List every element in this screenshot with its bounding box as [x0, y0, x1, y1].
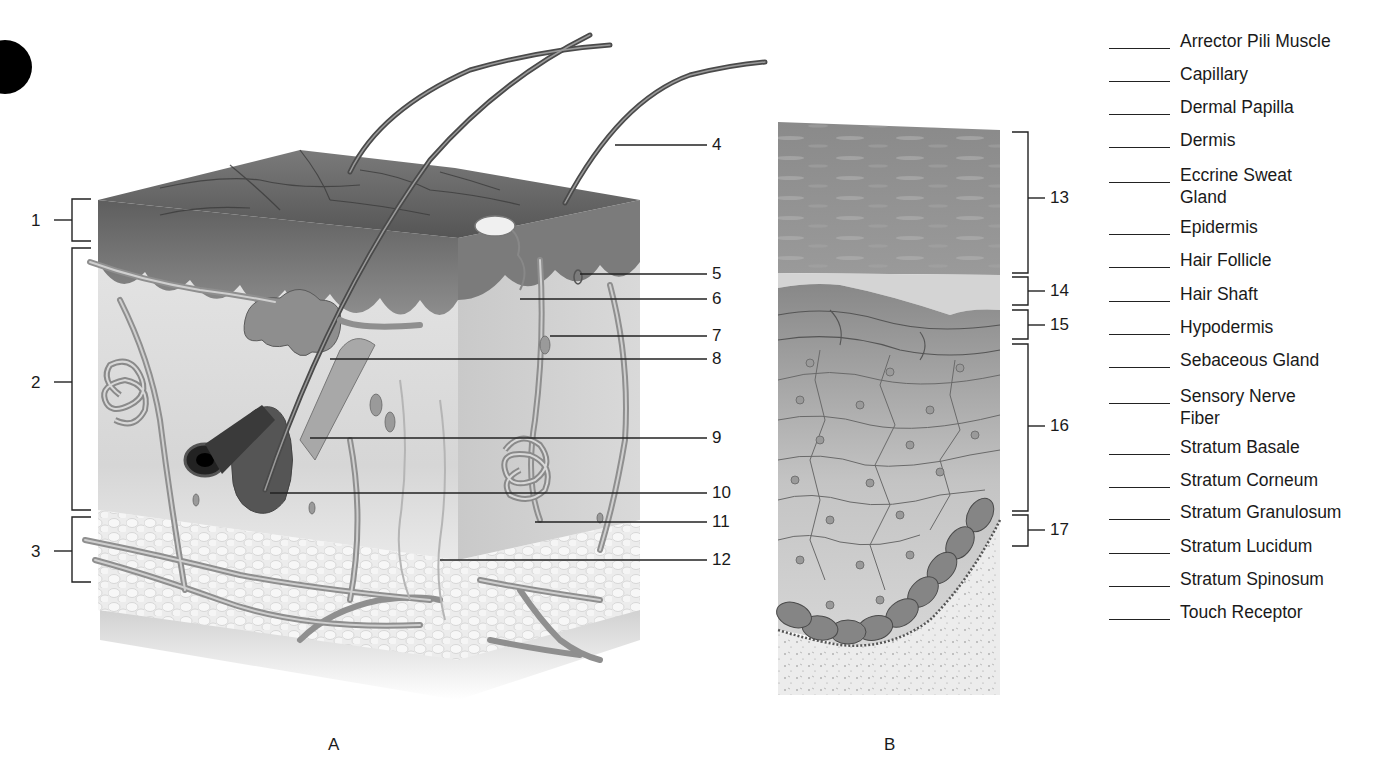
key-item-sensory-nerve-fiber: Sensory Nerve Fiber: [1109, 385, 1398, 436]
key-item-touch-receptor: Touch Receptor: [1109, 601, 1398, 634]
key-label: Sebaceous Gland: [1180, 349, 1319, 371]
answer-blank[interactable]: [1109, 300, 1170, 302]
key-label: Stratum Lucidum: [1180, 535, 1312, 557]
key-item-capillary: Capillary: [1109, 63, 1398, 96]
answer-key-list: Arrector Pili Muscle Capillary Dermal Pa…: [1109, 30, 1398, 634]
answer-blank[interactable]: [1109, 233, 1170, 235]
callout-label-11: 11: [712, 513, 730, 531]
callout-label-4: 4: [712, 136, 721, 154]
key-label: Stratum Spinosum: [1180, 568, 1324, 590]
key-item-arrector-pili-muscle: Arrector Pili Muscle: [1109, 30, 1398, 63]
bracket-label-13: 13: [1050, 189, 1069, 207]
answer-blank[interactable]: [1109, 552, 1170, 554]
answer-blank[interactable]: [1109, 618, 1170, 620]
key-label: Capillary: [1180, 63, 1248, 85]
key-item-stratum-basale: Stratum Basale: [1109, 436, 1398, 469]
key-label: Sensory Nerve Fiber: [1180, 385, 1330, 429]
key-item-hair-follicle: Hair Follicle: [1109, 249, 1398, 283]
key-label: Epidermis: [1180, 216, 1258, 238]
figure-a-caption: A: [328, 735, 339, 755]
callout-label-8: 8: [712, 350, 721, 368]
key-item-hypodermis: Hypodermis: [1109, 316, 1398, 349]
bracket-label-3: 3: [31, 543, 40, 561]
key-item-stratum-granulosum: Stratum Granulosum: [1109, 501, 1398, 535]
callout-label-7: 7: [712, 327, 721, 345]
answer-blank[interactable]: [1109, 453, 1170, 455]
key-label: Hair Shaft: [1180, 283, 1258, 305]
bracket-label-17: 17: [1050, 521, 1069, 539]
bracket-label-14: 14: [1050, 282, 1069, 300]
key-item-stratum-corneum: Stratum Corneum: [1109, 469, 1398, 501]
key-label: Dermis: [1180, 129, 1235, 151]
callout-label-6: 6: [712, 290, 721, 308]
key-item-hair-shaft: Hair Shaft: [1109, 283, 1398, 316]
key-label: Hair Follicle: [1180, 249, 1271, 271]
answer-blank[interactable]: [1109, 266, 1170, 268]
answer-blank[interactable]: [1109, 47, 1170, 49]
answer-blank[interactable]: [1109, 181, 1170, 183]
key-label: Stratum Granulosum: [1180, 501, 1341, 523]
answer-blank[interactable]: [1109, 366, 1170, 368]
callout-label-9: 9: [712, 429, 721, 447]
key-item-sebaceous-gland: Sebaceous Gland: [1109, 349, 1398, 385]
callout-label-10: 10: [712, 484, 731, 502]
bracket-label-15: 15: [1050, 316, 1069, 334]
bracket-label-16: 16: [1050, 417, 1069, 435]
key-label: Arrector Pili Muscle: [1180, 30, 1331, 52]
figure-b-caption: B: [884, 735, 895, 755]
figure-a-skin-block: [0, 0, 790, 700]
key-item-stratum-lucidum: Stratum Lucidum: [1109, 535, 1398, 568]
key-label: Hypodermis: [1180, 316, 1273, 338]
key-item-eccrine-sweat-gland: Eccrine Sweat Gland: [1109, 164, 1398, 216]
key-item-dermal-papilla: Dermal Papilla: [1109, 96, 1398, 129]
answer-blank[interactable]: [1109, 518, 1170, 520]
key-label: Touch Receptor: [1180, 601, 1303, 623]
callout-label-12: 12: [712, 551, 731, 569]
answer-blank[interactable]: [1109, 80, 1170, 82]
bracket-label-1: 1: [31, 212, 40, 230]
key-label: Stratum Basale: [1180, 436, 1300, 458]
answer-blank[interactable]: [1109, 585, 1170, 587]
answer-blank[interactable]: [1109, 402, 1170, 404]
key-label: Stratum Corneum: [1180, 469, 1318, 491]
key-item-epidermis: Epidermis: [1109, 216, 1398, 249]
key-label: Eccrine Sweat Gland: [1180, 164, 1330, 208]
key-item-dermis: Dermis: [1109, 129, 1398, 164]
key-label: Dermal Papilla: [1180, 96, 1294, 118]
answer-blank[interactable]: [1109, 333, 1170, 335]
answer-blank[interactable]: [1109, 486, 1170, 488]
bracket-label-2: 2: [31, 374, 40, 392]
answer-blank[interactable]: [1109, 113, 1170, 115]
callout-label-5: 5: [712, 265, 721, 283]
answer-blank[interactable]: [1109, 146, 1170, 148]
key-item-stratum-spinosum: Stratum Spinosum: [1109, 568, 1398, 601]
